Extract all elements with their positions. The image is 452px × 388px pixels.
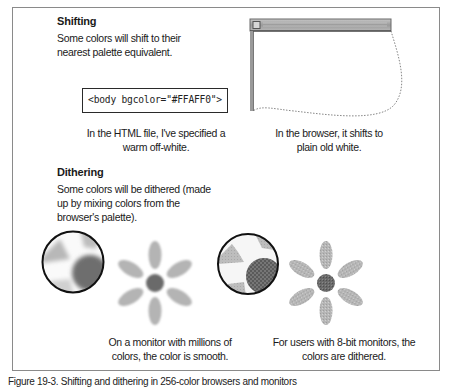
shifting-description: Some colors will shift to their nearest … bbox=[57, 31, 217, 59]
shifting-description-line: nearest palette equivalent. bbox=[57, 45, 217, 59]
caption-line: plain old white. bbox=[259, 140, 399, 154]
dithering-description: Some colors will be dithered (made up by… bbox=[57, 182, 237, 224]
browser-window-icon bbox=[249, 17, 399, 122]
caption-line: In the HTML file, I've specified a bbox=[66, 126, 246, 140]
dithering-description-line: Some colors will be dithered (made bbox=[57, 182, 237, 196]
caption-line: In the browser, it shifts to bbox=[259, 126, 399, 140]
dithered-flower-icon bbox=[284, 241, 368, 325]
dithering-heading: Dithering bbox=[57, 166, 103, 178]
caption-line: For users with 8-bit monitors, the bbox=[259, 335, 429, 349]
dithering-description-line: browser's palette). bbox=[57, 210, 237, 224]
dithering-description-line: up by mixing colors from the bbox=[57, 196, 237, 210]
shifting-right-caption: In the browser, it shifts to plain old w… bbox=[259, 126, 399, 154]
shifting-heading: Shifting bbox=[57, 15, 96, 27]
caption-line: warm off-white. bbox=[66, 140, 246, 154]
shifting-left-caption: In the HTML file, I've specified a warm … bbox=[66, 126, 246, 154]
caption-line: colors, the color is smooth. bbox=[90, 349, 250, 363]
figure-caption: Figure 19-3. Shifting and dithering in 2… bbox=[8, 376, 448, 388]
dithered-magnifier-icon bbox=[216, 232, 280, 296]
shifting-description-line: Some colors will shift to their bbox=[57, 31, 217, 45]
code-sample: <body bgcolor="#FFAFF0"> bbox=[82, 88, 228, 113]
dithering-left-caption: On a monitor with millions of colors, th… bbox=[90, 335, 250, 363]
caption-line: colors are dithered. bbox=[259, 349, 429, 363]
smooth-flower-icon bbox=[113, 241, 197, 325]
caption-line: On a monitor with millions of bbox=[90, 335, 250, 349]
smooth-magnifier-icon bbox=[40, 229, 106, 295]
dithering-right-caption: For users with 8-bit monitors, the color… bbox=[259, 335, 429, 363]
